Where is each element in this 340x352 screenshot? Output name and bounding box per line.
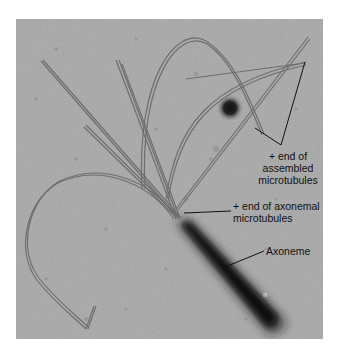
label-line: assembled xyxy=(248,162,328,174)
label-line: + end of xyxy=(248,150,328,162)
micrograph-figure: + end of assembled microtubules + end of… xyxy=(0,0,340,352)
label-axoneme: Axoneme xyxy=(266,245,310,257)
leader-line-axonemal xyxy=(184,211,231,213)
leader-line-axoneme xyxy=(225,251,264,267)
label-line: microtubules xyxy=(233,212,320,224)
leader-line-assembled-b xyxy=(255,128,281,145)
label-line: microtubules xyxy=(248,174,328,186)
label-axonemal-microtubules-plus-end: + end of axonemal microtubules xyxy=(233,200,320,224)
label-line: Axoneme xyxy=(266,245,310,257)
label-assembled-microtubules-plus-end: + end of assembled microtubules xyxy=(248,150,328,186)
leader-line-assembled-a xyxy=(281,62,305,145)
label-line: + end of axonemal xyxy=(233,200,320,212)
